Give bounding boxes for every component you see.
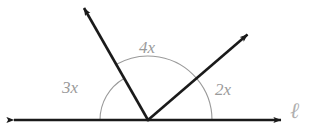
ray-upper-left	[84, 8, 148, 120]
ray-upper-right	[148, 35, 248, 121]
geometry-figure: 3x 4x 2x ℓ	[0, 0, 316, 140]
angle-arc-2x	[197, 79, 212, 120]
vertex-point	[146, 118, 149, 121]
geometry-canvas	[0, 0, 316, 140]
angle-label-3x: 3x	[62, 79, 78, 96]
angle-arc-3x	[100, 78, 124, 120]
line-label-l: ℓ	[290, 100, 299, 122]
angle-arc-4x	[116, 56, 197, 79]
angle-label-2x: 2x	[215, 81, 231, 98]
angle-label-4x: 4x	[139, 39, 155, 56]
